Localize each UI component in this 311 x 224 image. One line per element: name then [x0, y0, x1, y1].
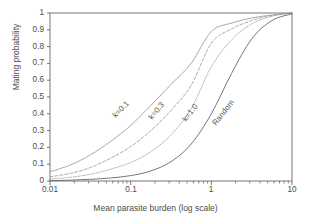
series-curve-k03 [50, 13, 292, 177]
series-curve-k01 [50, 13, 292, 172]
series-curve-k10 [50, 13, 292, 179]
chart-figure: Mating probability Mean parasite burden … [0, 0, 311, 224]
series-curve-random [50, 14, 292, 181]
